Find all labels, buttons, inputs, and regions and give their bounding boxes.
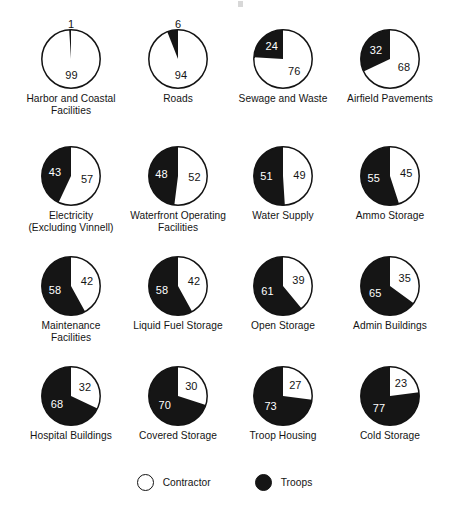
pie-panel: 7030Covered Storage (123, 354, 233, 442)
pie-panel-label: Water Supply (228, 208, 338, 222)
pie-value-label: 35 (398, 273, 410, 284)
pie-graphic: 7327 (228, 354, 338, 428)
pie-value-label: 45 (400, 168, 412, 179)
pie-graphic: 6139 (228, 244, 338, 318)
pie-panel-label: Electricity(Excluding Vinnell) (16, 208, 126, 235)
pie-svg (41, 366, 101, 426)
pie-panel: 5842Liquid Fuel Storage (123, 244, 233, 332)
pie-value-label: 24 (265, 41, 277, 52)
pie-chart-grid: 199Harbor and CoastalFacilities694Roads2… (0, 0, 449, 455)
pie-panel-label: Sewage and Waste (228, 91, 338, 105)
pie-value-label: 57 (81, 174, 93, 185)
pie-value-label: 70 (158, 400, 170, 411)
pie-graphic: 6832 (16, 354, 126, 428)
pie-graphic: 7030 (123, 354, 233, 428)
pie-panel-label: Admin Buildings (335, 318, 445, 332)
pie-value-label: 49 (293, 170, 305, 181)
pie-value-label: 32 (79, 382, 91, 393)
pie-panel: 6535Admin Buildings (335, 244, 445, 332)
pie-value-label: 58 (49, 285, 61, 296)
pie-value-label: 42 (81, 276, 93, 287)
pie-value-label: 68 (51, 399, 63, 410)
pie-value-label: 32 (370, 45, 382, 56)
pie-value-label: 94 (175, 70, 187, 81)
pie-panel-label: MaintenanceFacilities (16, 318, 126, 345)
pie-value-label: 65 (369, 288, 381, 299)
pie-value-label: 99 (65, 70, 77, 81)
pie-panel-label: Waterfront OperatingFacilities (123, 208, 233, 235)
pie-value-label: 68 (398, 62, 410, 73)
pie-graphic: 694 (123, 17, 233, 91)
pie-value-label: 6 (175, 19, 181, 30)
pie-panel: 3268Airfield Pavements (335, 17, 445, 105)
pie-panel-label: Cold Storage (335, 428, 445, 442)
pie-svg (360, 29, 420, 89)
pie-value-label: 1 (68, 19, 74, 30)
pie-panel: 199Harbor and CoastalFacilities (16, 17, 126, 118)
pie-panel-label: Hospital Buildings (16, 428, 126, 442)
pie-graphic: 4852 (123, 134, 233, 208)
pie-value-label: 42 (188, 276, 200, 287)
pie-value-label: 48 (155, 169, 167, 180)
pie-graphic: 4357 (16, 134, 126, 208)
pie-panel: 694Roads (123, 17, 233, 105)
legend-label-contractor: Contractor (163, 477, 211, 488)
pie-value-label: 39 (292, 275, 304, 286)
chart-legend: Contractor Troops (0, 462, 449, 502)
pie-graphic: 7723 (335, 354, 445, 428)
legend-swatch-contractor-icon (137, 474, 154, 491)
pie-panel: 4357Electricity(Excluding Vinnell) (16, 134, 126, 235)
pie-value-label: 51 (260, 171, 272, 182)
pie-panel-label: Harbor and CoastalFacilities (16, 91, 126, 118)
pie-graphic: 5842 (123, 244, 233, 318)
legend-item-troops: Troops (255, 474, 313, 491)
pie-panel-label: Troop Housing (228, 428, 338, 442)
pie-svg (253, 29, 313, 89)
pie-svg (148, 366, 208, 426)
pie-graphic: 5149 (228, 134, 338, 208)
pie-panel-label: Roads (123, 91, 233, 105)
pie-value-label: 76 (288, 66, 300, 77)
pie-svg (253, 366, 313, 426)
pie-value-label: 27 (289, 380, 301, 391)
pie-value-label: 73 (264, 401, 276, 412)
pie-panel-label: Liquid Fuel Storage (123, 318, 233, 332)
pie-svg (360, 366, 420, 426)
pie-value-label: 23 (395, 378, 407, 389)
pie-value-label: 30 (185, 381, 197, 392)
pie-panel: 5842MaintenanceFacilities (16, 244, 126, 345)
pie-panel-label: Airfield Pavements (335, 91, 445, 105)
pie-panel: 7723Cold Storage (335, 354, 445, 442)
pie-value-label: 61 (261, 286, 273, 297)
pie-panel: 5149Water Supply (228, 134, 338, 222)
legend-item-contractor: Contractor (137, 474, 211, 491)
pie-panel: 7327Troop Housing (228, 354, 338, 442)
pie-value-label: 52 (188, 172, 200, 183)
pie-value-label: 43 (49, 167, 61, 178)
pie-panel: 5545Ammo Storage (335, 134, 445, 222)
pie-graphic: 5842 (16, 244, 126, 318)
pie-panel: 4852Waterfront OperatingFacilities (123, 134, 233, 235)
legend-swatch-troops-icon (255, 474, 272, 491)
pie-graphic: 6535 (335, 244, 445, 318)
pie-panel-label: Ammo Storage (335, 208, 445, 222)
pie-graphic: 2476 (228, 17, 338, 91)
pie-graphic: 199 (16, 17, 126, 91)
pie-value-label: 55 (367, 173, 379, 184)
legend-label-troops: Troops (281, 477, 313, 488)
pie-panel-label: Open Storage (228, 318, 338, 332)
pie-graphic: 5545 (335, 134, 445, 208)
pie-graphic: 3268 (335, 17, 445, 91)
pie-panel: 6139Open Storage (228, 244, 338, 332)
pie-panel: 6832Hospital Buildings (16, 354, 126, 442)
pie-panel: 2476Sewage and Waste (228, 17, 338, 105)
pie-value-label: 58 (156, 285, 168, 296)
pie-panel-label: Covered Storage (123, 428, 233, 442)
pie-value-label: 77 (373, 403, 385, 414)
